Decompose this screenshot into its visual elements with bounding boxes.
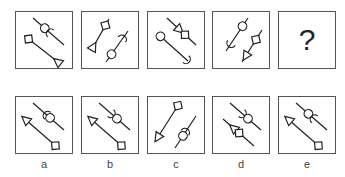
stroke-line-2: [282, 113, 326, 153]
stroke-line-2: [19, 113, 63, 153]
panel-figure: [82, 97, 138, 153]
option-label-c: c: [147, 158, 205, 170]
circle-icon: [237, 20, 249, 32]
square-icon: [249, 33, 263, 47]
square-icon: [21, 32, 35, 46]
stroke-line-2: [21, 32, 63, 68]
stroke-line-1: [33, 18, 64, 45]
panel-figure: [213, 97, 269, 153]
panel-figure: [82, 12, 138, 68]
panel-figure: [148, 12, 204, 68]
option-label-e: e: [278, 158, 336, 170]
answer-option-a[interactable]: [15, 96, 73, 154]
answer-option-c[interactable]: [147, 96, 205, 154]
square-icon: [171, 99, 185, 113]
stroke-line-2: [85, 113, 129, 153]
stroke-line-1: [99, 103, 130, 130]
option-label-d: d: [212, 158, 270, 170]
stroke-line-1: [88, 18, 113, 52]
stroke-line-2: [239, 30, 263, 63]
stroke-line-2: [106, 31, 129, 62]
answer-option-e[interactable]: [278, 96, 336, 154]
panel-figure: [279, 97, 335, 153]
triangle-icon: [51, 55, 64, 68]
square-icon: [98, 18, 112, 32]
question-panel-1: [15, 11, 73, 69]
panel-figure: [16, 12, 72, 68]
circle-icon: [106, 48, 118, 60]
option-label-a: a: [15, 158, 73, 170]
panel-figure: [213, 12, 269, 68]
stroke-line-1: [167, 18, 196, 45]
stroke-line-2: [175, 116, 196, 148]
question-mark: ?: [279, 12, 335, 68]
option-label-b: b: [81, 158, 139, 170]
triangle-icon: [239, 50, 251, 62]
question-panel-4: [212, 11, 270, 69]
answer-option-b[interactable]: [81, 96, 139, 154]
stroke-line-1: [225, 18, 248, 51]
panel-figure: [16, 97, 72, 153]
stroke-line-1: [33, 103, 64, 130]
circle-icon: [177, 130, 189, 142]
question-panel-3: [147, 11, 205, 69]
question-panel-5: ?: [278, 11, 336, 69]
question-panel-2: [81, 11, 139, 69]
answer-option-d[interactable]: [212, 96, 270, 154]
triangle-icon: [88, 40, 100, 52]
panel-figure: [148, 97, 204, 153]
stroke-line-1: [296, 103, 327, 130]
arrowhead-icon: [151, 132, 163, 144]
